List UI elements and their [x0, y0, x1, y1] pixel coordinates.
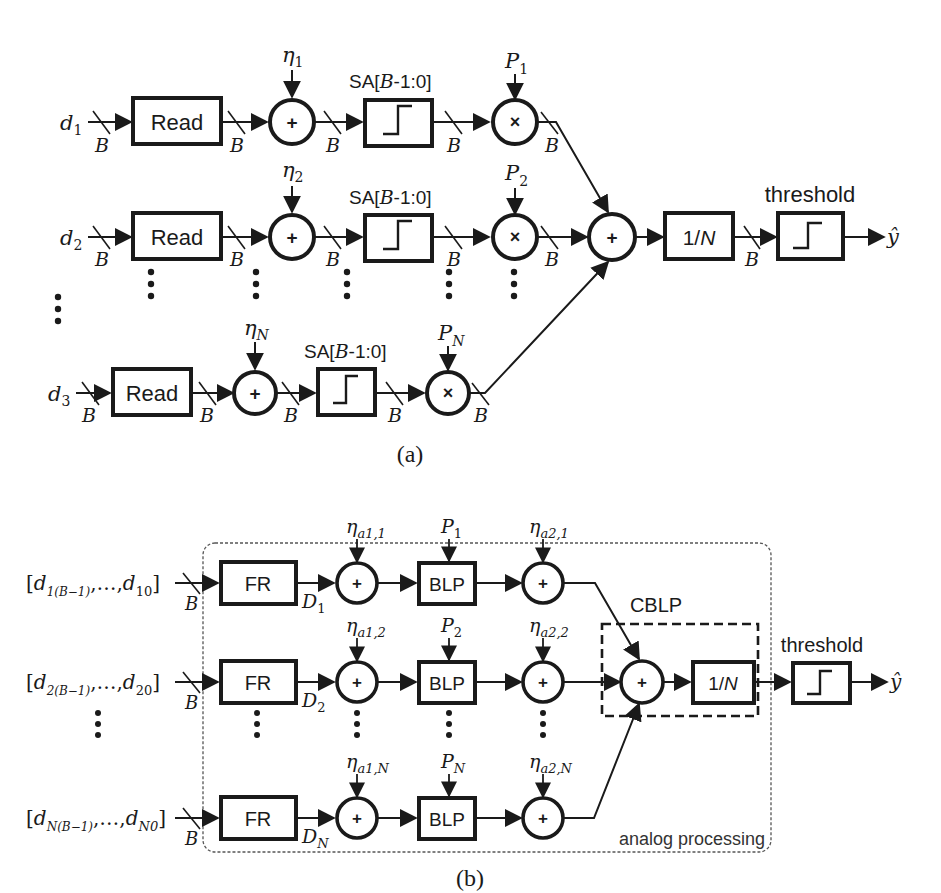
- bus-width-label: B: [184, 692, 198, 713]
- figure-a-row-2: d2 B Read B η2 + B SA[B-1:0] B P2: [60, 158, 587, 270]
- threshold-block: [778, 213, 843, 259]
- noise2-label: ηa2,N: [529, 750, 573, 776]
- wire-to-sum: [469, 262, 608, 393]
- read-label: Read: [151, 225, 204, 250]
- input-vector-label: [d2(B−1),…,d20]: [26, 670, 160, 698]
- input-vector-label: [d1(B−1),…,d10]: [26, 571, 160, 599]
- adder-symbol: +: [538, 809, 548, 828]
- threshold-label: threshold: [765, 182, 856, 207]
- weight-label: PN: [437, 321, 465, 349]
- bus-width-label: B: [387, 404, 402, 426]
- step-function-icon: [333, 376, 358, 403]
- bus-width-label: B: [199, 404, 214, 426]
- bus-width-label: B: [94, 248, 109, 270]
- multiplier-symbol: ×: [443, 383, 454, 403]
- figure-b: analog processing CBLP [d1(B−1),…,d10] B…: [26, 515, 902, 891]
- noise-label: η1: [282, 43, 304, 70]
- sense-amp-label: SA[B-1:0]: [349, 70, 432, 92]
- average-label: 1/N: [708, 673, 738, 694]
- sense-amp-label: SA[B-1:0]: [349, 186, 432, 208]
- weight-label: P1: [440, 515, 462, 541]
- step-function-icon: [383, 221, 412, 249]
- adder-symbol: +: [538, 673, 548, 692]
- sense-amp-label: SA[B-1:0]: [304, 340, 387, 362]
- noise1-label: ηa1,2: [346, 614, 386, 640]
- wire-to-sum: [563, 583, 639, 659]
- read-label: Read: [126, 381, 179, 406]
- figure-a-output-stage: + 1/N B threshold ŷ: [511, 182, 900, 299]
- figure-a: d1 B Read B η1 + B SA[B-1:0] B P1: [48, 43, 900, 467]
- multiplier-symbol: ×: [510, 112, 521, 132]
- bus-width-label: B: [184, 828, 198, 849]
- noise2-label: ηa2,2: [529, 614, 569, 640]
- noise1-label: ηa1,N: [346, 750, 390, 776]
- input-label: d2: [60, 226, 82, 253]
- adder-symbol: +: [538, 574, 548, 593]
- input-label: d1: [60, 111, 82, 138]
- adder-symbol: +: [352, 574, 362, 593]
- fr-label: FR: [245, 808, 272, 830]
- weight-label: P2: [440, 614, 462, 640]
- weight-label: P1: [504, 49, 528, 77]
- read-label: Read: [151, 110, 204, 135]
- step-function-icon: [793, 223, 822, 248]
- sum-symbol: +: [637, 673, 647, 692]
- bus-width-label: B: [544, 134, 559, 156]
- noise2-label: ηa2,1: [529, 515, 569, 541]
- figure-caption-a: (a): [397, 441, 424, 467]
- bus-width-label: B: [229, 248, 244, 270]
- bus-width-label: B: [544, 248, 559, 270]
- blp-label: BLP: [429, 673, 465, 694]
- adder-symbol: +: [352, 673, 362, 692]
- multiplier-symbol: ×: [510, 227, 521, 247]
- step-function-icon: [383, 106, 412, 134]
- noise-label: ηN: [244, 316, 270, 343]
- adder-symbol: +: [286, 227, 297, 248]
- input-label: d3: [48, 382, 70, 409]
- input-vector-label: [dN(B−1),…,dN0]: [26, 806, 166, 834]
- blp-label: BLP: [429, 809, 465, 830]
- noise1-label: ηa1,1: [346, 515, 386, 541]
- output-label: ŷ: [886, 225, 900, 249]
- figure-a-row-n: d3 B Read B ηN + B SA[B-1:0] B PN: [48, 262, 608, 426]
- noise-label: η2: [282, 158, 304, 185]
- threshold-label: threshold: [781, 634, 863, 656]
- bus-width-label: B: [94, 134, 109, 156]
- sum-symbol: +: [606, 227, 617, 248]
- analog-processing-label: analog processing: [619, 829, 765, 849]
- ellipsis-dots: [511, 269, 517, 299]
- bus-width-label: B: [81, 404, 96, 426]
- fr-label: FR: [245, 672, 272, 694]
- bus-width-label: B: [184, 593, 198, 614]
- cblp-label: CBLP: [630, 594, 682, 616]
- analog-processing-region: [203, 543, 771, 852]
- bus-width-label: B: [446, 134, 461, 156]
- bus-width-label: B: [229, 134, 244, 156]
- bus-width-label: B: [744, 248, 759, 270]
- fr-output-label: DN: [301, 825, 329, 851]
- figure-b-row-n: [dN(B−1),…,dN0] B FR DN ηa1,N + PN BLP η…: [26, 704, 639, 851]
- bus-width-label: B: [473, 404, 488, 426]
- wire-to-sum: [563, 704, 639, 818]
- figure-caption-b: (b): [456, 865, 484, 891]
- bus-width-label: B: [446, 248, 461, 270]
- average-label: 1/N: [683, 226, 717, 249]
- weight-label: P2: [504, 161, 528, 189]
- fr-label: FR: [245, 573, 272, 595]
- figure-canvas: d1 B Read B η1 + B SA[B-1:0] B P1: [0, 0, 941, 893]
- fr-output-label: D2: [301, 689, 326, 715]
- adder-symbol: +: [352, 809, 362, 828]
- step-function-icon: [807, 671, 832, 694]
- output-label: ŷ: [889, 670, 902, 694]
- adder-symbol: +: [286, 112, 297, 133]
- bus-width-label: B: [283, 404, 298, 426]
- threshold-block: [793, 663, 850, 703]
- adder-symbol: +: [249, 383, 260, 404]
- figure-b-row-2: [d2(B−1),…,d20] B FR D2 ηa1,2 + P2 BLP η…: [26, 614, 620, 715]
- bus-width-label: B: [325, 134, 340, 156]
- blp-label: BLP: [429, 574, 465, 595]
- bus-width-label: B: [325, 248, 340, 270]
- fr-output-label: D1: [301, 590, 326, 616]
- weight-label: PN: [440, 750, 466, 776]
- figure-b-output-stage: + 1/N threshold ŷ: [621, 634, 902, 703]
